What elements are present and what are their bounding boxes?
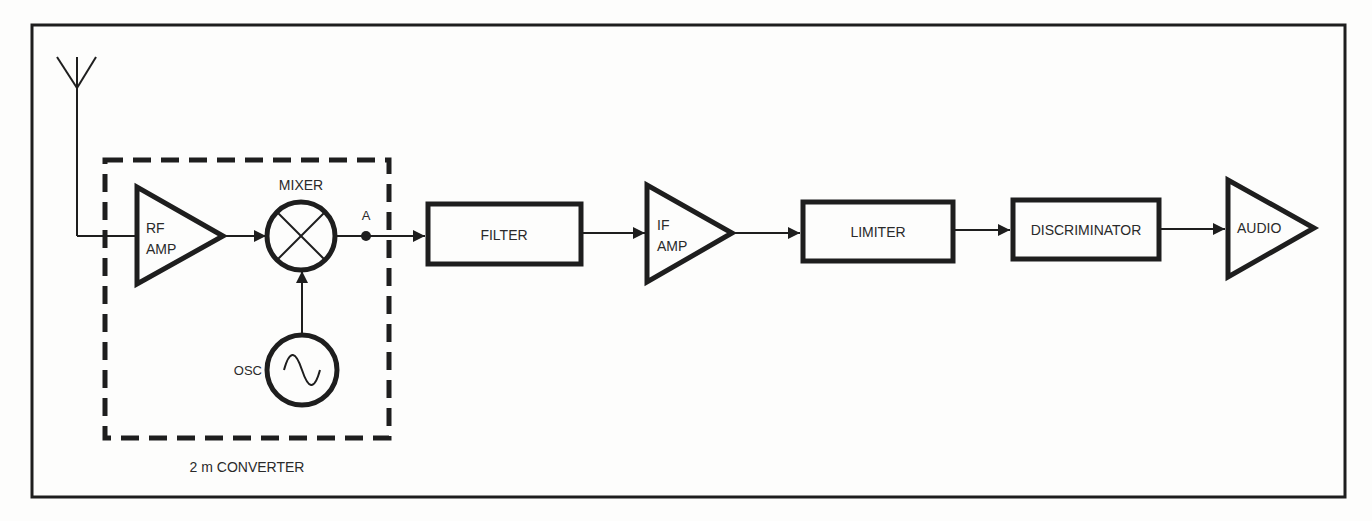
amplifier-icon [647,185,732,282]
converter-group-box [105,160,389,438]
rf-amp-label-line1: RF [146,220,165,236]
if-amp-label-line2: AMP [657,238,687,254]
limiter-block: LIMITER [803,202,953,261]
filter-label: FILTER [480,227,527,243]
audio-label: AUDIO [1237,220,1281,236]
filter-block: FILTER [428,204,581,264]
if-amp-label-line1: IF [657,217,669,233]
receiver-block-diagram: 2 m CONVERTER RF AMP MIXER A OSC FILTER … [0,0,1372,521]
if-amp-block: IF AMP [647,185,732,282]
osc-label: OSC [234,363,262,378]
test-point-a-icon [361,231,371,241]
test-point-a-label: A [362,208,371,223]
discriminator-label: DISCRIMINATOR [1031,222,1142,238]
rf-amp-label-line2: AMP [146,241,176,257]
discriminator-block: DISCRIMINATOR [1013,200,1159,259]
audio-block: AUDIO [1228,180,1314,277]
limiter-label: LIMITER [850,224,905,240]
osc-block: OSC [234,335,337,405]
converter-group-label: 2 m CONVERTER [190,459,305,475]
mixer-label: MIXER [279,177,323,193]
rf-amp-block: RF AMP [137,187,223,284]
antenna-icon [57,57,137,236]
mixer-block: MIXER [267,177,335,270]
